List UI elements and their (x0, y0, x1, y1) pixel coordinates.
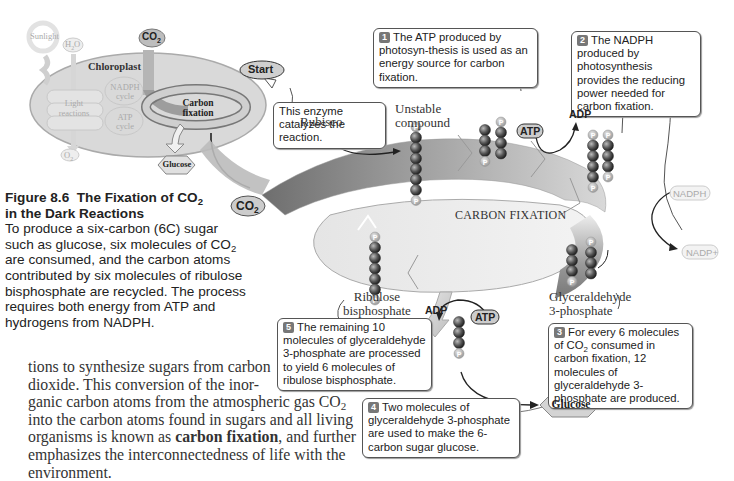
rubp-label: Ribulosebisphosphate (343, 290, 411, 318)
chloroplast-label: Chloroplast (88, 61, 141, 72)
phosphate-label: P (570, 279, 575, 286)
co2-inset-label: CO2 (142, 31, 161, 42)
carbon-atom (586, 268, 597, 279)
carbon-atom (480, 125, 491, 136)
carbon-atom (567, 266, 578, 277)
carbon-atom (588, 172, 599, 183)
sunlight-label: Sunlight (30, 31, 59, 41)
phosphate-label: P (606, 132, 611, 139)
phosphate-label: P (499, 119, 504, 126)
carbon-atom (480, 135, 491, 146)
carbon-atom (588, 140, 599, 151)
nadp-label: NADP+ (686, 247, 718, 258)
carbon-atom (496, 127, 507, 138)
carbon-atom (588, 151, 599, 162)
carbon-atom (454, 338, 465, 349)
nadph-cycle-label: NADPHcycle (108, 83, 142, 101)
figure-title: Figure 8.6 The Fixation of CO2in the Dar… (5, 190, 250, 221)
callout-4-glucose: 4Two molecules of glyceraldehyde 3-phosp… (362, 398, 520, 458)
phosphate-label: P (414, 198, 419, 205)
light-reactions-label: Lightreactions (54, 99, 94, 118)
o2-label: O2 (64, 150, 73, 160)
phosphate-label: P (457, 351, 462, 358)
carbon-atom (603, 151, 614, 162)
carbon-atom (411, 185, 422, 196)
callout-3-g3p: 3For every 6 molecules of CO2 consumed i… (548, 323, 693, 409)
atp-bottom-label: ATP (475, 311, 495, 323)
carbon-atom (411, 132, 422, 143)
carbon-atom (370, 253, 381, 264)
carbon-fixation-inset-label: Carbonfixation (176, 98, 220, 118)
phosphate-label: P (591, 185, 596, 192)
atp-cycle-label: ATPcycle (108, 113, 142, 131)
callout-1-atp: 1The ATP produced by photosyn-thesis is … (373, 28, 538, 88)
carbon-atom (588, 161, 599, 172)
h2o-label: H2O (65, 39, 80, 49)
phosphate-label: P (373, 234, 378, 241)
carbon-atom (411, 143, 422, 154)
carbon-atom (411, 174, 422, 185)
figure-caption: Figure 8.6 The Fixation of CO2in the Dar… (5, 190, 250, 330)
nadph-label: NADPH (673, 188, 706, 199)
carbon-fixation-term: carbon fixation (175, 428, 278, 445)
adp-bottom-label: ADP (425, 304, 447, 316)
figure-caption-text: To produce a six-carbon (6C) sugar such … (5, 221, 250, 330)
carbon-atom (411, 153, 422, 164)
callout-2-nadph: 2The NADPH produced by photosynthesis pr… (571, 31, 701, 117)
carbon-atom (567, 245, 578, 256)
carbon-atom (370, 242, 381, 253)
phosphate-label: P (589, 239, 594, 246)
carbon-atom (370, 263, 381, 274)
carbon-atom (454, 317, 465, 328)
carbon-atom (567, 255, 578, 266)
nadph-nadp-arc (652, 192, 672, 247)
unstable-compound-label: Unstablecompound (395, 102, 450, 130)
carbon-atom (480, 146, 491, 157)
carbon-atom (411, 164, 422, 175)
phosphate-label: P (591, 132, 596, 139)
carbon-atom (603, 140, 614, 151)
start-label: Start (248, 63, 273, 75)
carbon-fixation-title: CARBON FIXATION (455, 208, 566, 222)
carbon-atom (496, 138, 507, 149)
carbon-atom (370, 274, 381, 285)
glucose-inset-label: Glucose (161, 159, 193, 169)
rubisco-label: Rubisco (300, 115, 343, 129)
carbon-atom (496, 148, 507, 159)
carbon-atom (586, 258, 597, 269)
co2-main-label: CO2 (236, 199, 259, 213)
phosphate-label: P (483, 159, 488, 166)
g3p-label: Glyceraldehyde3-phosphate (549, 290, 631, 318)
atp-top-label: ATP (520, 125, 540, 137)
carbon-atom (454, 327, 465, 338)
glucose-main-label: Glucose (546, 398, 596, 410)
carbon-atom (586, 247, 597, 258)
phosphate-label: P (606, 174, 611, 181)
adp-top-label: ADP (569, 108, 591, 120)
carbon-atom (603, 161, 614, 172)
callout-5-rubp: 5The remaining 10 molecules of glycerald… (277, 318, 432, 391)
